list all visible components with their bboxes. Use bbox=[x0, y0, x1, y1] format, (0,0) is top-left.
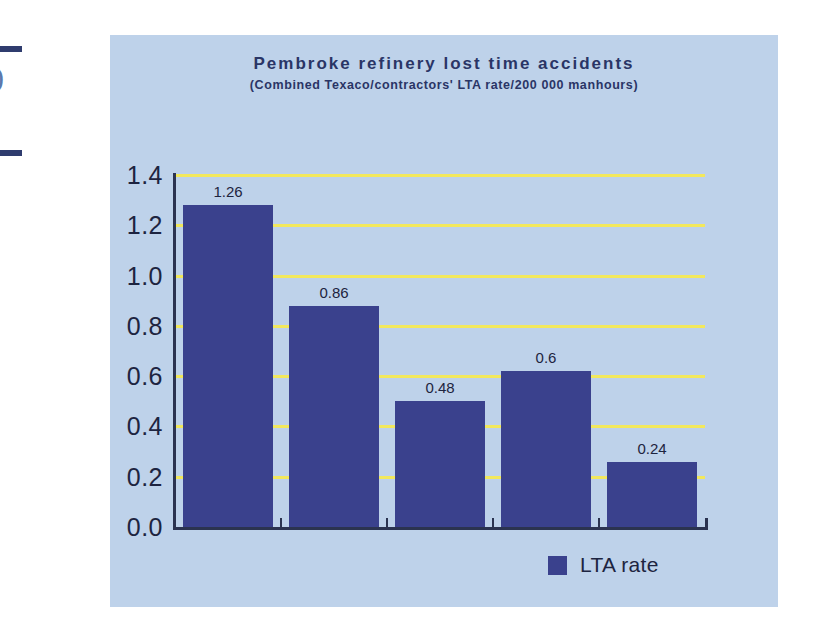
bar-value-label: 0.86 bbox=[319, 284, 348, 301]
bar-value-label: 0.6 bbox=[536, 349, 557, 366]
plot-area: 0.00.20.40.60.81.01.21.4 1.260.860.480.6… bbox=[175, 175, 705, 527]
y-axis-tick-label: 1.0 bbox=[127, 261, 163, 290]
bar-value-label: 1.26 bbox=[213, 183, 242, 200]
y-axis-tick-label: 0.6 bbox=[127, 362, 163, 391]
y-axis-line bbox=[173, 173, 176, 529]
y-axis-tick-label: 1.4 bbox=[127, 161, 163, 190]
bar bbox=[395, 401, 485, 527]
bar-value-label: 0.24 bbox=[637, 440, 666, 457]
page-edge-dash-top bbox=[0, 46, 22, 52]
page-edge-glyph: ) bbox=[0, 62, 12, 92]
bar bbox=[289, 306, 379, 527]
chart-title: Pembroke refinery lost time accidents bbox=[110, 54, 778, 74]
bar bbox=[183, 205, 273, 527]
gridline bbox=[175, 174, 705, 177]
x-axis-line bbox=[173, 527, 708, 530]
legend-swatch-lta-rate bbox=[548, 556, 567, 575]
y-axis-tick-label: 0.4 bbox=[127, 412, 163, 441]
bar bbox=[607, 462, 697, 527]
bar-value-label: 0.48 bbox=[425, 379, 454, 396]
chart-legend: LTA rate bbox=[548, 553, 659, 577]
page-edge-dash-middle bbox=[0, 150, 22, 156]
chart-panel: Pembroke refinery lost time accidents (C… bbox=[110, 35, 778, 607]
y-axis-tick-label: 0.0 bbox=[127, 513, 163, 542]
y-axis-tick-label: 0.8 bbox=[127, 311, 163, 340]
bar bbox=[501, 371, 591, 527]
legend-label-lta-rate: LTA rate bbox=[580, 553, 659, 577]
y-axis-tick-label: 0.2 bbox=[127, 462, 163, 491]
chart-subtitle: (Combined Texaco/contractors' LTA rate/2… bbox=[110, 78, 778, 92]
y-axis-tick-label: 1.2 bbox=[127, 211, 163, 240]
chart-title-block: Pembroke refinery lost time accidents (C… bbox=[110, 54, 778, 92]
x-axis-right-cap bbox=[705, 518, 708, 530]
x-axis-left-cap bbox=[173, 518, 176, 530]
